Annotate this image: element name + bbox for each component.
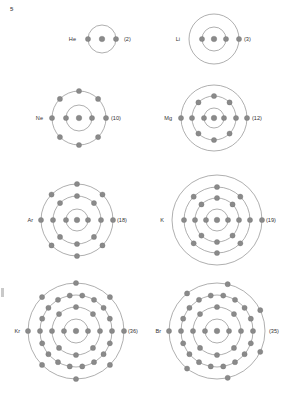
electron bbox=[225, 375, 230, 380]
electron bbox=[196, 297, 201, 302]
electron bbox=[232, 360, 237, 365]
element-symbol-bromine: Br bbox=[155, 328, 161, 334]
electron bbox=[61, 328, 66, 333]
electron bbox=[208, 293, 213, 298]
electron bbox=[39, 294, 44, 299]
electron bbox=[221, 293, 226, 298]
electron bbox=[76, 88, 81, 93]
electron bbox=[248, 316, 253, 321]
electron bbox=[190, 328, 195, 333]
electron bbox=[67, 293, 72, 298]
nucleus bbox=[214, 328, 220, 334]
electron bbox=[40, 341, 45, 346]
electron bbox=[208, 364, 213, 369]
electron bbox=[214, 352, 219, 357]
electron bbox=[40, 316, 45, 321]
element-symbol-krypton: Kr bbox=[14, 328, 20, 334]
electron bbox=[73, 304, 78, 309]
electron bbox=[197, 345, 202, 350]
electron bbox=[214, 304, 219, 309]
electron bbox=[248, 341, 253, 346]
electron bbox=[231, 345, 236, 350]
atom-diagram-bromine: Br(35) bbox=[89, 203, 299, 405]
electron bbox=[178, 328, 183, 333]
electron bbox=[250, 328, 255, 333]
electron bbox=[56, 345, 61, 350]
electron bbox=[184, 366, 189, 371]
electron bbox=[226, 328, 231, 333]
electron bbox=[221, 364, 226, 369]
electron-count-bromine: (35) bbox=[269, 328, 279, 334]
electron bbox=[80, 364, 85, 369]
electron bbox=[67, 364, 72, 369]
electron bbox=[214, 184, 219, 189]
electron bbox=[73, 280, 78, 285]
electron bbox=[242, 305, 247, 310]
electron bbox=[56, 311, 61, 316]
electron bbox=[258, 349, 263, 354]
electron bbox=[166, 328, 171, 333]
electron bbox=[242, 352, 247, 357]
nucleus bbox=[73, 328, 79, 334]
electron bbox=[55, 297, 60, 302]
electron bbox=[191, 194, 196, 199]
electron bbox=[184, 291, 189, 296]
electron bbox=[46, 305, 51, 310]
electron bbox=[187, 352, 192, 357]
electron bbox=[73, 352, 78, 357]
electron bbox=[238, 328, 243, 333]
electron bbox=[196, 360, 201, 365]
electron bbox=[181, 316, 186, 321]
electron bbox=[39, 362, 44, 367]
electron bbox=[232, 297, 237, 302]
electron bbox=[74, 193, 79, 198]
electron bbox=[49, 192, 54, 197]
electron bbox=[231, 311, 236, 316]
electron bbox=[73, 376, 78, 381]
electron bbox=[202, 328, 207, 333]
electron bbox=[25, 328, 30, 333]
electron bbox=[57, 96, 62, 101]
electron bbox=[49, 328, 54, 333]
electron bbox=[258, 308, 263, 313]
electron bbox=[187, 305, 192, 310]
electron bbox=[74, 181, 79, 186]
electron bbox=[46, 352, 51, 357]
atom-diagram-grid: He(2)Li(3)Ne(10)Mg(12)Ar(18)K(19)Kr(36)B… bbox=[0, 0, 299, 405]
electron bbox=[214, 195, 219, 200]
electron bbox=[181, 341, 186, 346]
electron bbox=[37, 328, 42, 333]
electron bbox=[55, 360, 60, 365]
electron bbox=[197, 311, 202, 316]
electron bbox=[80, 293, 85, 298]
electron bbox=[238, 194, 243, 199]
electron bbox=[225, 282, 230, 287]
